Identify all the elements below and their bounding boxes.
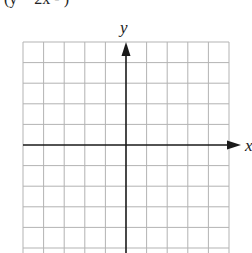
axes [23,54,228,253]
coordinate-grid: y x [0,0,252,253]
x-axis-label: x [244,136,252,155]
x-axis-arrow-icon [227,141,241,150]
y-axis-label: y [118,18,128,37]
y-axis-arrow-icon [122,42,131,56]
